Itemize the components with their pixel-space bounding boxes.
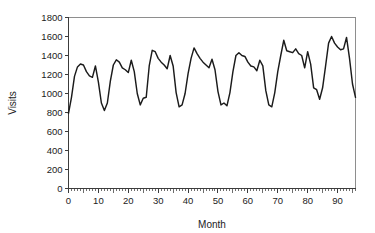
x-tick-label: 30 [153, 195, 164, 206]
series-line-visits [69, 37, 356, 114]
y-axis: 020040060080010001200140016001800 Visits [7, 12, 69, 194]
y-tick-label: 0 [57, 183, 62, 194]
x-tick-label: 50 [213, 195, 224, 206]
x-tick-label: 20 [123, 195, 134, 206]
x-tick-label: 70 [272, 195, 283, 206]
y-tick-label: 1800 [41, 12, 62, 23]
data-series-group [69, 37, 356, 114]
x-tick-label: 80 [302, 195, 313, 206]
x-tick-label: 10 [93, 195, 104, 206]
y-tick-label: 200 [47, 164, 63, 175]
visits-line-chart: 020040060080010001200140016001800 Visits… [0, 0, 375, 233]
chart-figure: 020040060080010001200140016001800 Visits… [0, 0, 375, 233]
x-tick-label: 60 [243, 195, 254, 206]
plot-frame [69, 18, 356, 189]
x-axis: 0102030405060708090 Month [66, 189, 356, 231]
x-axis-title: Month [198, 219, 226, 230]
y-tick-label: 600 [47, 126, 63, 137]
y-tick-label: 1000 [41, 88, 62, 99]
y-tick-label: 800 [47, 107, 63, 118]
y-tick-label: 1200 [41, 69, 62, 80]
y-tick-label: 1600 [41, 31, 62, 42]
y-tick-label: 1400 [41, 50, 62, 61]
y-tick-label: 400 [47, 145, 63, 156]
y-axis-title: Visits [7, 91, 18, 115]
x-tick-label: 90 [332, 195, 343, 206]
x-tick-label: 0 [66, 195, 71, 206]
x-tick-label: 40 [183, 195, 194, 206]
